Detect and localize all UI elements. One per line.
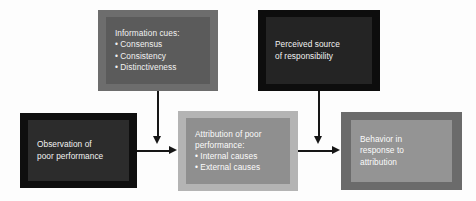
node-information-cues-body: Information cues: • Consensus • Consiste… [106,17,210,84]
node-information-cues: Information cues: • Consensus • Consiste… [98,10,218,91]
attribution-process-diagram: Information cues: • Consensus • Consiste… [0,0,476,201]
node-attribution-line-2: performance: [186,140,290,151]
node-observation-line-1: Observation of [28,139,129,150]
connector-perceived-source-to-behavior-line [318,91,320,137]
connector-information-cues-to-attribution-line [157,91,159,137]
node-behavior-body: Behavior in response to attribution [351,120,452,182]
arrowhead-down-icon [153,136,161,144]
node-information-cues-line-2: • Consensus [106,39,210,50]
node-observation: Observation of poor performance [20,113,137,188]
node-observation-line-2: poor performance [28,151,129,162]
node-attribution: Attribution of poor performance: • Inter… [178,111,298,191]
node-observation-body: Observation of poor performance [28,120,129,181]
connector-attribution-to-behavior-line [298,150,334,152]
node-attribution-line-4: • External causes [186,162,290,173]
node-behavior-line-2: response to [351,145,452,156]
node-attribution-line-3: • Internal causes [186,151,290,162]
connector-observation-to-attribution-line [137,150,171,152]
node-information-cues-line-3: • Consistency [106,51,210,62]
node-information-cues-line-4: • Distinctiveness [106,62,210,73]
arrowhead-right-icon [332,146,340,154]
node-information-cues-line-1: Information cues: [106,28,210,39]
node-behavior-line-3: attribution [351,157,452,168]
node-perceived-source-body: Perceived source of responsibility [266,17,372,84]
arrowhead-right-icon [169,146,177,154]
node-perceived-source-line-2: of responsibility [266,51,372,62]
arrowhead-down-icon [314,136,322,144]
node-behavior-line-1: Behavior in [351,134,452,145]
node-behavior: Behavior in response to attribution [341,112,462,190]
node-attribution-body: Attribution of poor performance: • Inter… [186,118,290,184]
node-perceived-source: Perceived source of responsibility [258,10,380,91]
node-perceived-source-line-1: Perceived source [266,39,372,50]
node-attribution-line-1: Attribution of poor [186,129,290,140]
